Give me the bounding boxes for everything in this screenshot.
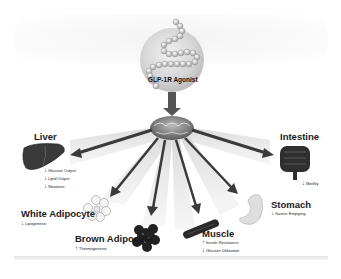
- intestine-icon: [280, 146, 310, 180]
- liver-effect-1: ↓Glucose Output: [44, 168, 76, 173]
- muscle-effect-2: ↓Glucose Utilization: [202, 248, 239, 253]
- brain-icon: [150, 116, 194, 140]
- muscle-effect-1: ↑Insulin Resistance: [202, 240, 238, 245]
- glp1r-diagram: GLP-1R Agonist Liver ↓Glucose Output ↓Li…: [0, 0, 341, 279]
- intestine-title: Intestine: [280, 131, 319, 142]
- liver-effect-2: ↓Lipid Output: [44, 176, 70, 181]
- brown-adipocyte-effect-1: ↑Thermogenesis: [75, 246, 107, 251]
- arrow-agonist-to-brain: [163, 92, 181, 116]
- brown-adipocyte-title: Brown Adipocyte: [75, 233, 153, 244]
- stomach-title: Stomach: [271, 199, 311, 210]
- liver-icon: [23, 144, 65, 170]
- white-adipocyte-title: White Adipocyte: [21, 208, 95, 219]
- white-adipocyte-effect-1: ↓Lipogenesis: [21, 221, 46, 226]
- agonist-label: GLP-1R Agonist: [148, 76, 198, 83]
- liver-effect-3: ↓Steatosis: [44, 184, 64, 189]
- stomach-icon: [240, 195, 263, 225]
- liver-title: Liver: [34, 131, 57, 142]
- muscle-title: Muscle: [202, 228, 234, 239]
- intestine-effect-1: ↓Motility: [302, 181, 318, 186]
- stomach-effect-1: ↓Gastric Emptying: [271, 211, 305, 216]
